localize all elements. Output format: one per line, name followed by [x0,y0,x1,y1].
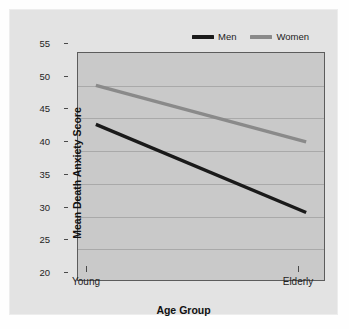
y-tick-mark [64,239,68,240]
y-tick-mark [64,141,68,142]
x-tick-mark [86,266,87,272]
legend-entry-men: Men [192,32,236,42]
y-tick-label: 20 [10,267,50,278]
chart-card: Men Women 2025303540455055 YoungElderly … [9,9,338,315]
y-tick-label: 30 [10,201,50,212]
y-tick-mark [64,76,68,77]
legend-label-women: Women [276,32,309,42]
data-lines [78,53,324,280]
legend-swatch-women [250,35,272,39]
y-tick-mark [64,207,68,208]
x-tick-label: Elderly [283,276,314,287]
y-tick-label: 25 [10,234,50,245]
y-tick-mark [64,174,68,175]
y-tick-label: 35 [10,168,50,179]
y-tick-mark [64,43,68,44]
x-axis-title: Age Group [9,304,349,316]
y-axis-title: Mean Death Anxiety Score [71,58,83,288]
y-tick-label: 50 [10,70,50,81]
y-tick-label: 55 [10,38,50,49]
y-tick-label: 40 [10,136,50,147]
chart-legend: Men Women [192,29,309,45]
series-line-women [96,85,306,141]
legend-entry-women: Women [250,32,309,42]
legend-label-men: Men [218,32,236,42]
y-tick-label: 45 [10,103,50,114]
y-tick-mark [64,108,68,109]
series-line-men [96,124,306,212]
legend-swatch-men [192,35,214,39]
plot-area [77,52,325,281]
figure: Men Women 2025303540455055 YoungElderly … [0,0,349,329]
x-tick-mark [298,266,299,272]
y-tick-mark [64,272,68,273]
